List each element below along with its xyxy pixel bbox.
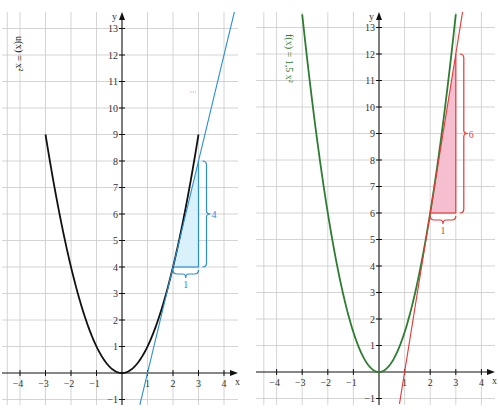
run-label: 1 — [441, 225, 446, 236]
y-tick-label: 6 — [113, 209, 118, 220]
x-tick-label: 3 — [196, 378, 201, 389]
tangent-line — [140, 7, 236, 405]
y-tick-label: 11 — [365, 75, 375, 86]
x-tick-label: −3 — [38, 378, 49, 389]
y-tick-label: 8 — [370, 155, 375, 166]
y-tick-label: 1 — [113, 341, 118, 352]
x-tick-label: 3 — [453, 377, 458, 388]
x-tick-label: −1 — [346, 377, 357, 388]
y-tick-label: 5 — [370, 234, 375, 245]
y-tick-label: 9 — [113, 129, 118, 140]
y-tick-label: 10 — [365, 102, 375, 113]
run-brace — [430, 216, 456, 224]
y-tick-label: 7 — [113, 182, 118, 193]
run-brace — [173, 270, 199, 278]
x-tick-label: −1 — [89, 378, 100, 389]
left-panel-u: −4−3−2−11234−112345678910111213xy14u(x) … — [2, 7, 240, 405]
y-tick-label: −1 — [364, 393, 375, 404]
x-tick-label: 4 — [479, 377, 484, 388]
x-axis-label: x — [235, 376, 240, 387]
x-tick-label: −4 — [13, 378, 24, 389]
y-tick-label: 8 — [113, 156, 118, 167]
y-tick-label: 2 — [113, 315, 118, 326]
x-tick-label: 4 — [222, 378, 227, 389]
y-tick-label: −1 — [107, 394, 118, 405]
x-tick-label: −4 — [269, 377, 280, 388]
function-graphs-figure: −4−3−2−11234−112345678910111213xy14u(x) … — [0, 0, 498, 410]
rise-label: 4 — [212, 209, 217, 220]
y-tick-label: 1 — [370, 340, 375, 351]
rise-label: 6 — [469, 129, 474, 140]
x-tick-label: −3 — [295, 377, 306, 388]
y-tick-label: 13 — [365, 22, 375, 33]
y-tick-label: 11 — [108, 76, 118, 87]
right-panel-f: −4−3−2−11234−112345678910111213xy16f(x) … — [256, 6, 497, 405]
function-label: f(x) = 1,5 x² — [283, 34, 295, 83]
y-tick-label: 4 — [370, 261, 375, 272]
y-axis-label: y — [112, 11, 117, 22]
y-tick-label: 10 — [108, 103, 118, 114]
x-tick-label: 2 — [428, 377, 433, 388]
x-tick-label: 2 — [171, 378, 176, 389]
y-tick-label: 9 — [370, 128, 375, 139]
run-label: 1 — [183, 279, 188, 290]
y-tick-label: 3 — [370, 287, 375, 298]
y-axis-label: y — [369, 11, 374, 22]
y-axis-arrow-icon — [376, 12, 382, 20]
y-tick-label: 4 — [113, 262, 118, 273]
y-axis-arrow-icon — [119, 12, 125, 20]
y-tick-label: 2 — [370, 314, 375, 325]
function-label: u(x) = x² — [13, 36, 25, 71]
y-tick-label: 6 — [370, 208, 375, 219]
y-tick-label: 12 — [108, 50, 118, 61]
y-tick-label: 3 — [113, 288, 118, 299]
y-tick-label: 7 — [370, 181, 375, 192]
figure: −4−3−2−11234−112345678910111213xy14u(x) … — [0, 0, 498, 410]
y-tick-label: 13 — [108, 23, 118, 34]
y-tick-label: 5 — [113, 235, 118, 246]
x-tick-label: −2 — [64, 378, 75, 389]
y-tick-label: 12 — [365, 49, 375, 60]
x-axis-label: x — [492, 375, 497, 386]
x-tick-label: −2 — [320, 377, 331, 388]
